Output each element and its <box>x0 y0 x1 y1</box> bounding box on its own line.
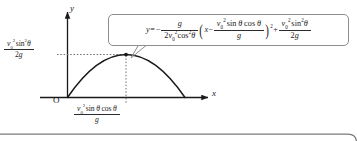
coefficient-numerator: g <box>161 20 198 31</box>
equation-coefficient-fraction: g 2v02cos2θ <box>161 20 198 40</box>
binomial-fraction: v02 sin θ cos θ g <box>214 20 264 40</box>
apex-range-denominator: g <box>74 115 120 124</box>
origin-label: O <box>53 95 60 105</box>
vertex-denominator: 2g <box>279 31 311 41</box>
max-height-numerator: v02 sin2θ <box>4 40 34 50</box>
y-axis-label: y <box>70 3 74 13</box>
equation-expression: y=− g 2v02cos2θ (x− v02 sin θ cos θ g )2… <box>146 20 311 40</box>
binomial-numerator: v02 sin θ cos θ <box>214 20 264 31</box>
apex-range-numerator: v02 sin θ cos θ <box>74 105 120 115</box>
x-axis-label: x <box>212 88 216 98</box>
vertex-term-fraction: v02 sin2θ 2g <box>279 20 311 40</box>
close-paren: ) <box>265 25 269 36</box>
vertex-numerator: v02 sin2θ <box>279 20 311 31</box>
max-height-denominator: 2g <box>4 50 34 59</box>
equation-callout-box: y=− g 2v02cos2θ (x− v02 sin θ cos θ g )2… <box>108 14 349 46</box>
apex-range-label: v02 sin θ cos θ g <box>74 105 120 124</box>
figure-canvas: y=− g 2v02cos2θ (x− v02 sin θ cos θ g )2… <box>0 0 357 141</box>
open-paren: ( <box>200 25 204 36</box>
binomial-denominator: g <box>214 31 264 41</box>
max-height-label: v02 sin2θ 2g <box>4 40 34 59</box>
coefficient-denominator: 2v02cos2θ <box>161 31 198 41</box>
